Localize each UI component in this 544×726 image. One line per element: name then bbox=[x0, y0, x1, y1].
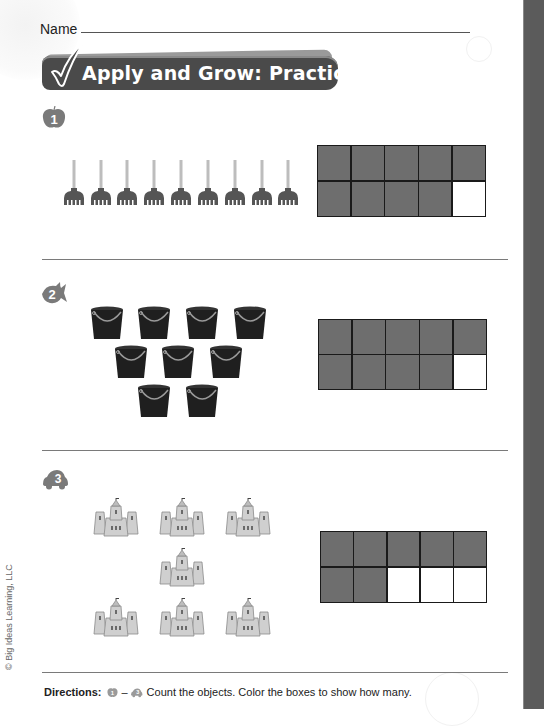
ten-frame-box[interactable] bbox=[385, 182, 417, 216]
rake-icon bbox=[225, 160, 245, 210]
name-write-line[interactable] bbox=[81, 32, 470, 33]
apple-icon: 1 bbox=[106, 687, 119, 698]
ten-frame-box[interactable] bbox=[420, 355, 452, 389]
ten-frame-box[interactable] bbox=[386, 320, 418, 354]
ten-frame-box[interactable] bbox=[421, 532, 453, 566]
ten-frame-box[interactable] bbox=[321, 568, 353, 602]
problem-3-badge: 3 bbox=[41, 467, 69, 491]
ten-frame-2 bbox=[318, 319, 487, 390]
ten-frame-box[interactable] bbox=[454, 320, 486, 354]
sandcastle-icon bbox=[224, 598, 272, 638]
ten-frame-box[interactable] bbox=[385, 146, 417, 180]
background-circle-decoration bbox=[425, 672, 479, 726]
sandcastle-icon bbox=[92, 598, 140, 638]
range-dash: – bbox=[121, 686, 127, 698]
directions-text: Count the objects. Color the boxes to sh… bbox=[147, 686, 412, 698]
bucket-icon bbox=[161, 345, 195, 379]
background-circle-decoration bbox=[466, 36, 492, 62]
rakes-group bbox=[64, 160, 304, 212]
sandcastle-icon bbox=[158, 498, 206, 538]
ten-frame-box[interactable] bbox=[318, 182, 350, 216]
rake-icon bbox=[252, 160, 272, 210]
directions-label: Directions: bbox=[44, 686, 101, 698]
svg-text:3: 3 bbox=[136, 689, 139, 695]
svg-text:3: 3 bbox=[55, 472, 62, 486]
svg-text:2: 2 bbox=[48, 287, 55, 302]
section-banner: Apply and Grow: Practice bbox=[42, 52, 338, 90]
rake-icon bbox=[278, 160, 298, 210]
name-field[interactable]: Name bbox=[40, 18, 470, 36]
ten-frame-box[interactable] bbox=[386, 355, 418, 389]
ten-frame-box[interactable] bbox=[421, 568, 453, 602]
rake-icon bbox=[117, 160, 137, 210]
ten-frame-box[interactable] bbox=[388, 568, 420, 602]
ten-frame-box[interactable] bbox=[453, 146, 485, 180]
rake-icon bbox=[144, 160, 164, 210]
car-icon: 3 bbox=[130, 687, 143, 698]
section-divider bbox=[42, 672, 508, 673]
ten-frame-box[interactable] bbox=[319, 320, 351, 354]
ten-frame-box[interactable] bbox=[321, 532, 353, 566]
problem-1-badge: 1 bbox=[40, 106, 68, 130]
sandcastle-icon bbox=[92, 498, 140, 538]
ten-frame-box[interactable] bbox=[453, 182, 485, 216]
svg-text:1: 1 bbox=[50, 112, 57, 127]
sandcastle-icon bbox=[224, 498, 272, 538]
ten-frame-box[interactable] bbox=[353, 320, 385, 354]
name-label: Name bbox=[40, 22, 77, 36]
ten-frame-3 bbox=[320, 531, 487, 603]
bucket-icon bbox=[233, 306, 267, 340]
rake-icon bbox=[64, 160, 84, 210]
bucket-icon bbox=[137, 306, 171, 340]
page-edge-strip bbox=[523, 0, 544, 709]
ten-frame-box[interactable] bbox=[454, 568, 486, 602]
ten-frame-box[interactable] bbox=[352, 182, 384, 216]
rake-icon bbox=[198, 160, 218, 210]
copyright-text: © Big Ideas Learning, LLC bbox=[4, 564, 14, 670]
rake-icon bbox=[171, 160, 191, 210]
bucket-icon bbox=[114, 345, 148, 379]
bucket-icon bbox=[137, 384, 171, 418]
bucket-icon bbox=[90, 306, 124, 340]
ten-frame-box[interactable] bbox=[353, 355, 385, 389]
section-divider bbox=[42, 259, 508, 260]
ten-frame-box[interactable] bbox=[318, 146, 350, 180]
rake-icon bbox=[91, 160, 111, 210]
ten-frame-box[interactable] bbox=[454, 532, 486, 566]
ten-frame-box[interactable] bbox=[419, 182, 451, 216]
ten-frame-box[interactable] bbox=[352, 146, 384, 180]
ten-frame-box[interactable] bbox=[454, 355, 486, 389]
bucket-icon bbox=[209, 345, 243, 379]
ten-frame-box[interactable] bbox=[419, 146, 451, 180]
page-title: Apply and Grow: Practice bbox=[82, 62, 358, 84]
ten-frame-box[interactable] bbox=[354, 568, 386, 602]
bucket-icon bbox=[185, 306, 219, 340]
section-divider bbox=[42, 450, 508, 451]
buckets-group bbox=[90, 306, 270, 424]
bucket-icon bbox=[185, 384, 219, 418]
apple-icon: 1 bbox=[40, 106, 68, 130]
car-icon: 3 bbox=[41, 467, 69, 491]
ten-frame-1 bbox=[317, 145, 486, 217]
sandcastles-group bbox=[92, 498, 277, 646]
ten-frame-box[interactable] bbox=[354, 532, 386, 566]
ten-frame-box[interactable] bbox=[388, 532, 420, 566]
problem-2-badge: 2 bbox=[40, 281, 68, 305]
ten-frame-box[interactable] bbox=[420, 320, 452, 354]
sandcastle-icon bbox=[158, 548, 206, 588]
fish-icon: 2 bbox=[40, 281, 68, 305]
ten-frame-box[interactable] bbox=[319, 355, 351, 389]
directions: Directions: 1 – 3 Count the objects. Col… bbox=[44, 686, 412, 698]
sandcastle-icon bbox=[158, 598, 206, 638]
